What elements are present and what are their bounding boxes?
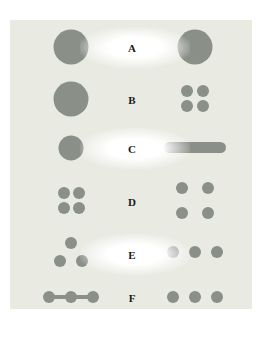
- row-d-label: D: [122, 196, 142, 208]
- row-a: A: [10, 23, 252, 72]
- row-c: C: [10, 124, 252, 173]
- row-d: D: [10, 177, 252, 226]
- row-b-label: B: [122, 94, 142, 106]
- row-e-label: E: [122, 249, 142, 261]
- row-a-label: A: [122, 42, 142, 54]
- row-f-label: F: [122, 292, 142, 304]
- figure-panel: A B C D E F: [10, 20, 252, 309]
- row-e: E: [10, 230, 252, 279]
- row-c-label: C: [122, 143, 142, 155]
- row-b: B: [10, 75, 252, 124]
- row-f: F: [10, 273, 252, 322]
